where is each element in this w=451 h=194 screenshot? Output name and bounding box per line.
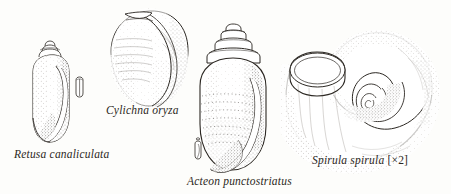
label-spirula-text: Spirula spirula (312, 154, 384, 166)
label-retusa-text: Retusa canaliculata (14, 148, 109, 160)
acteon-scale-silhouette (195, 138, 201, 159)
figure-cylichna-oryza (108, 8, 192, 112)
figure-spirula-spirula (280, 28, 445, 175)
acteon-spire (207, 24, 260, 63)
label-spirula-magnification: [×2] (387, 154, 408, 166)
retusa-scale-silhouette (76, 77, 83, 97)
label-retusa-canaliculata: Retusa canaliculata (14, 148, 109, 160)
figure-retusa-canaliculata (33, 41, 83, 145)
spirula-coil-core (365, 100, 374, 108)
figure-acteon-punctostriatus (195, 24, 270, 176)
label-spirula-spirula: Spirula spirula [×2] (312, 154, 408, 166)
label-cylichna-text: Cylichna oryza (106, 104, 179, 116)
label-acteon-punctostriatus: Acteon punctostriatus (187, 175, 292, 187)
illustration-plate: Retusa canaliculata Cylichna oryza Acteo… (0, 0, 451, 194)
label-cylichna-oryza: Cylichna oryza (106, 104, 179, 116)
label-acteon-text: Acteon punctostriatus (187, 175, 292, 187)
